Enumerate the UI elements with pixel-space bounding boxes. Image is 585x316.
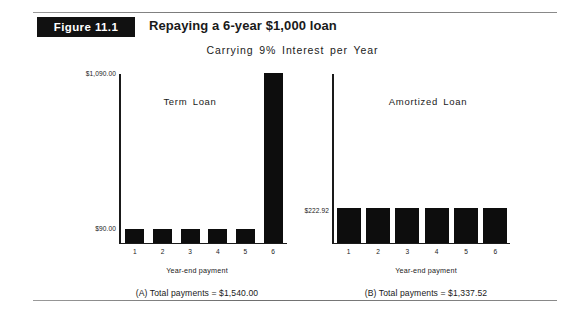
xtick-label: 2 [366,248,390,255]
panel-a-ytick-low: $90.00 [95,225,116,232]
figure-top-rule [33,12,557,13]
panel-a-xticks: 1 2 3 4 5 6 [121,248,287,255]
xtick-label: 3 [181,248,200,255]
xtick-label: 4 [208,248,227,255]
panel-a-plot-area: $1,090.00 $90.00 1 2 3 4 5 6 [119,66,287,244]
panel-a-axis-title: Year-end payment [62,266,292,275]
bar [236,229,255,243]
panel-a-caption: (A) Total payments = $1,540.00 [62,288,292,298]
figure-title: Repaying a 6-year $1,000 loan [149,18,337,33]
panel-b-caption: (B) Total payments = $1,337.52 [292,288,532,298]
xtick-label: 1 [125,248,144,255]
figure-bottom-rule [33,300,557,301]
bar [454,208,478,243]
xtick-label: 5 [454,248,478,255]
xtick-label: 6 [264,248,283,255]
figure-header: Figure 11.1 Repaying a 6-year $1,000 loa… [37,17,557,38]
panel-a-ytick-high: $1,090.00 [86,70,116,77]
panel-b-axis-title: Year-end payment [292,266,532,275]
bar [153,229,172,243]
xtick-label: 1 [337,248,361,255]
chart-panel-amortized-loan: Amortized Loan $222.92 1 2 3 4 5 6 Year-… [292,66,532,298]
bar [366,208,390,243]
panel-b-bars [334,74,510,243]
bar [264,73,283,243]
xtick-label: 5 [236,248,255,255]
bar [208,229,227,243]
chart-panel-term-loan: Term Loan $1,090.00 $90.00 1 2 3 4 5 6 Y… [62,66,292,298]
figure-number-badge: Figure 11.1 [37,17,135,37]
bar [181,229,200,243]
xtick-label: 6 [483,248,507,255]
bar [395,208,419,243]
panel-a-bars [121,74,287,243]
panel-b-x-axis [332,243,510,245]
panel-a-x-axis [119,243,287,245]
bar [483,208,507,243]
xtick-label: 3 [395,248,419,255]
panel-b-ytick: $222.92 [304,207,329,214]
xtick-label: 4 [425,248,449,255]
bar [337,208,361,243]
bar [125,229,144,243]
figure-subtitle: Carrying 9% Interest per Year [0,44,585,56]
panel-b-plot-area: $222.92 1 2 3 4 5 6 [332,66,510,244]
panel-b-xticks: 1 2 3 4 5 6 [334,248,510,255]
bar [425,208,449,243]
xtick-label: 2 [153,248,172,255]
